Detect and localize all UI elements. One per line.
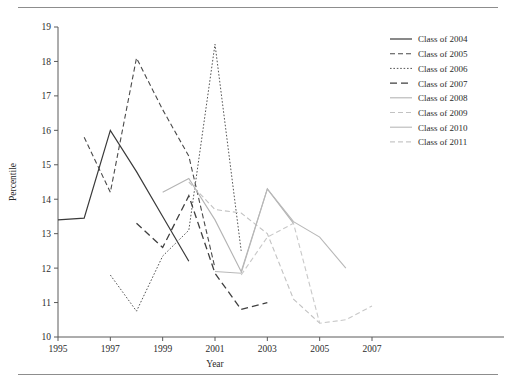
y-tick-label-11: 11 <box>42 298 51 308</box>
y-tick-label-12: 12 <box>42 264 52 274</box>
series-line-class-of-2008 <box>163 179 294 272</box>
y-axis-title: Percentile <box>8 163 18 201</box>
y-tick-label-16: 16 <box>42 126 52 136</box>
x-tick-label-2007: 2007 <box>363 344 382 354</box>
x-tick-label-1999: 1999 <box>153 344 172 354</box>
x-tick-label-2005: 2005 <box>310 344 329 354</box>
x-tick-label-1997: 1997 <box>101 344 120 354</box>
legend-label-class-of-2005: Class of 2005 <box>418 49 468 59</box>
y-tick-label-13: 13 <box>42 229 52 239</box>
legend-label-class-of-2009: Class of 2009 <box>418 108 468 118</box>
legend-label-class-of-2010: Class of 2010 <box>418 123 468 133</box>
legend-label-class-of-2011: Class of 2011 <box>418 137 467 147</box>
plot-area: 1011121314151617181919951997199920012003… <box>0 0 508 383</box>
legend-label-class-of-2006: Class of 2006 <box>418 64 468 74</box>
y-tick-label-17: 17 <box>42 91 52 101</box>
x-tick-label-1995: 1995 <box>49 344 68 354</box>
x-axis-title: Year <box>206 359 224 369</box>
series-line-class-of-2004 <box>58 130 189 261</box>
y-tick-label-19: 19 <box>42 22 52 32</box>
series-line-class-of-2006 <box>110 44 241 311</box>
x-tick-label-2003: 2003 <box>258 344 277 354</box>
y-tick-label-14: 14 <box>42 195 52 205</box>
y-tick-label-15: 15 <box>42 160 52 170</box>
y-tick-label-18: 18 <box>42 57 52 67</box>
x-tick-label-2001: 2001 <box>206 344 225 354</box>
series-line-class-of-2005 <box>84 58 215 268</box>
legend-label-class-of-2004: Class of 2004 <box>418 34 468 44</box>
series-line-class-of-2010 <box>215 189 346 273</box>
legend-label-class-of-2007: Class of 2007 <box>418 79 468 89</box>
legend-label-class-of-2008: Class of 2008 <box>418 93 468 103</box>
series-line-class-of-2011 <box>241 223 372 323</box>
series-line-class-of-2009 <box>189 182 320 323</box>
line-chart: 1011121314151617181919951997199920012003… <box>0 0 508 383</box>
y-tick-label-10: 10 <box>42 332 52 342</box>
figure-container: 1011121314151617181919951997199920012003… <box>0 0 508 383</box>
